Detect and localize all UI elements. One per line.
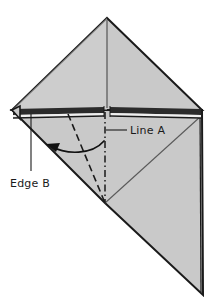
edge-b-label: Edge B bbox=[10, 177, 50, 190]
paper-lower-triangle bbox=[12, 110, 203, 295]
diagram-canvas: Line A Edge B bbox=[0, 0, 217, 307]
line-a-label: Line A bbox=[130, 124, 165, 137]
origami-diagram: Line A Edge B bbox=[0, 0, 217, 307]
